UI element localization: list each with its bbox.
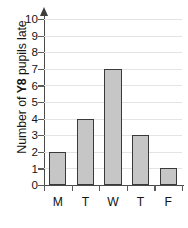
- plot-area: [44, 19, 182, 185]
- x-tick-mark: [44, 185, 45, 191]
- x-tick-label: M: [46, 196, 70, 209]
- bar: [77, 119, 94, 185]
- y-tick-label: 6: [18, 80, 38, 92]
- y-tick-label: 10: [18, 13, 38, 25]
- x-tick-mark: [127, 185, 128, 191]
- x-tick-mark: [99, 185, 100, 191]
- y-tick-label: 4: [18, 113, 38, 125]
- x-tick-label: F: [156, 196, 180, 209]
- x-tick-mark: [154, 185, 155, 191]
- x-tick-label: T: [73, 196, 97, 209]
- x-tick-label: W: [101, 196, 125, 209]
- y-tick-label: 3: [18, 129, 38, 141]
- bar: [104, 69, 121, 185]
- x-tick-label: T: [129, 196, 153, 209]
- y-tick-label: 8: [18, 46, 38, 58]
- bar-chart: Number of Y8 pupils late 109876543210 MT…: [0, 0, 188, 228]
- y-tick-label: 5: [18, 96, 38, 108]
- y-tick-label: 0: [18, 179, 38, 191]
- y-tick-label: 9: [18, 30, 38, 42]
- bar: [132, 135, 149, 185]
- x-tick-mark: [182, 185, 183, 191]
- bar: [49, 152, 66, 185]
- x-tick-mark: [72, 185, 73, 191]
- y-tick-label: 7: [18, 63, 38, 75]
- y-tick-label: 2: [18, 146, 38, 158]
- y-tick-label: 1: [18, 163, 38, 175]
- bar: [160, 168, 177, 185]
